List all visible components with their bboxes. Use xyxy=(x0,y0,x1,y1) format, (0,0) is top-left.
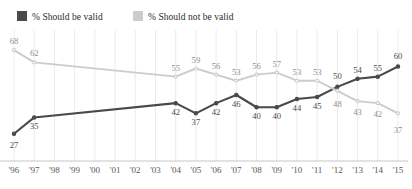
data-point xyxy=(13,49,16,52)
data-label: 56 xyxy=(206,61,226,71)
x-tick-label: '15 xyxy=(387,165,409,175)
data-point xyxy=(33,61,36,64)
data-label: 42 xyxy=(166,107,186,117)
gridlines xyxy=(14,30,398,161)
data-point xyxy=(315,95,318,98)
data-label: 60 xyxy=(388,51,408,61)
data-label: 45 xyxy=(307,101,327,111)
x-tick-label: '07 xyxy=(225,165,247,175)
data-point xyxy=(376,75,379,78)
legend-swatch-should-be-valid xyxy=(17,11,27,21)
data-label: 53 xyxy=(287,67,307,77)
data-point xyxy=(33,116,36,119)
x-axis-tick-labels: '96'97'98'99'00'01'02'03'04'05'06'07'08'… xyxy=(0,163,412,185)
data-label: 57 xyxy=(267,59,287,69)
data-point xyxy=(194,67,197,70)
data-label: 62 xyxy=(24,48,44,58)
data-label: 55 xyxy=(368,63,388,73)
x-tick-label: '03 xyxy=(145,165,167,175)
legend-item-should-be-valid: % Should be valid xyxy=(17,6,103,20)
data-label: 53 xyxy=(226,67,246,77)
data-point xyxy=(275,71,278,74)
data-point xyxy=(174,101,177,104)
data-label: 42 xyxy=(206,107,226,117)
x-tick-label: '14 xyxy=(367,165,389,175)
data-label: 27 xyxy=(4,140,24,150)
data-point xyxy=(275,106,278,109)
x-tick-label: '02 xyxy=(124,165,146,175)
data-label: 56 xyxy=(247,61,267,71)
data-label: 37 xyxy=(186,117,206,127)
data-label: 53 xyxy=(307,67,327,77)
data-label: 37 xyxy=(388,125,408,135)
x-tick-label: '09 xyxy=(266,165,288,175)
data-point xyxy=(295,97,298,100)
data-label: 55 xyxy=(166,63,186,73)
chart-figure: % Should be valid % Should not be valid … xyxy=(0,0,412,189)
data-point xyxy=(174,75,177,78)
data-point xyxy=(235,93,238,96)
data-label: 40 xyxy=(247,111,267,121)
data-point xyxy=(376,102,379,105)
legend-label-should-not-be-valid: % Should not be valid xyxy=(148,12,234,22)
data-point xyxy=(336,85,339,88)
data-point xyxy=(396,65,399,68)
legend-label-should-be-valid: % Should be valid xyxy=(32,12,103,22)
x-tick-label: '06 xyxy=(205,165,227,175)
data-point xyxy=(316,79,319,82)
data-label: 40 xyxy=(267,111,287,121)
x-tick-label: '10 xyxy=(286,165,308,175)
legend-swatch-should-not-be-valid xyxy=(133,11,143,21)
data-point xyxy=(235,79,238,82)
x-tick-label: '12 xyxy=(326,165,348,175)
x-tick-label: '04 xyxy=(165,165,187,175)
data-point xyxy=(356,100,359,103)
data-label: 35 xyxy=(24,121,44,131)
data-point xyxy=(397,112,400,115)
data-label: 54 xyxy=(348,65,368,75)
data-point xyxy=(12,132,15,135)
line-chart-svg xyxy=(0,30,412,162)
x-tick-label: '96 xyxy=(3,165,25,175)
chart-legend: % Should be valid % Should not be valid xyxy=(0,0,412,26)
x-tick-label: '05 xyxy=(185,165,207,175)
data-point xyxy=(336,89,339,92)
x-tick-label: '99 xyxy=(64,165,86,175)
data-label: 43 xyxy=(348,107,368,117)
data-point xyxy=(295,79,298,82)
x-tick-label: '01 xyxy=(104,165,126,175)
data-point xyxy=(356,77,359,80)
legend-item-should-not-be-valid: % Should not be valid xyxy=(133,6,234,20)
x-tick-label: '00 xyxy=(84,165,106,175)
data-label: 48 xyxy=(327,99,347,109)
data-point xyxy=(215,73,218,76)
x-tick-label: '97 xyxy=(23,165,45,175)
x-tick-label: '11 xyxy=(306,165,328,175)
data-label: 59 xyxy=(186,55,206,65)
data-point xyxy=(214,101,217,104)
data-label: 50 xyxy=(327,71,347,81)
x-tick-label: '08 xyxy=(246,165,268,175)
data-label: 68 xyxy=(4,36,24,46)
data-point xyxy=(255,106,258,109)
data-label: 42 xyxy=(368,109,388,119)
data-point xyxy=(255,73,258,76)
plot-area: 2735423742464040444550545560686255595653… xyxy=(0,30,412,162)
data-label: 46 xyxy=(226,99,246,109)
x-tick-label: '98 xyxy=(43,165,65,175)
data-point xyxy=(194,112,197,115)
x-tick-label: '13 xyxy=(347,165,369,175)
data-label: 44 xyxy=(287,103,307,113)
